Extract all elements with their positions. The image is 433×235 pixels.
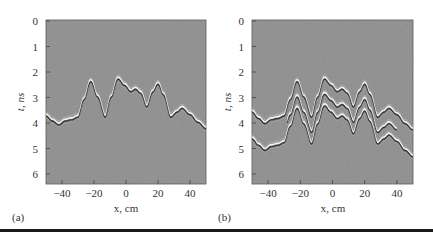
y-tick-label: 4 xyxy=(33,117,39,129)
y-tick-label: 5 xyxy=(33,143,39,155)
y-tick-label: 2 xyxy=(239,66,245,78)
panel-label-b: (b) xyxy=(218,211,231,224)
y-tick-label: 0 xyxy=(239,15,245,27)
x-tick-label: 40 xyxy=(185,187,197,199)
panel-b: 0123456 −40−2002040 t, ns x, cm (b) xyxy=(218,15,413,224)
y-tick-label: 3 xyxy=(239,92,245,104)
x-tick-label: 20 xyxy=(359,187,371,199)
x-tick-label: 0 xyxy=(330,187,336,199)
x-tick-label: 0 xyxy=(123,187,129,199)
y-tick-label: 2 xyxy=(33,66,39,78)
x-axis-title-a: x, cm xyxy=(114,202,139,214)
bottom-rule xyxy=(0,229,433,232)
figure: 0123456 −40−2002040 t, ns x, cm (a) 0123… xyxy=(0,0,433,235)
panel-a: 0123456 −40−2002040 t, ns x, cm (a) xyxy=(12,15,206,224)
x-tick-label: 20 xyxy=(153,187,165,199)
y-tick-label: 6 xyxy=(239,168,245,180)
y-tick-label: 5 xyxy=(239,143,245,155)
x-tick-label: −20 xyxy=(85,187,103,199)
y-tick-label: 3 xyxy=(33,92,39,104)
y-tick-label: 1 xyxy=(33,41,39,53)
x-tick-label: −40 xyxy=(259,187,277,199)
x-tick-label: 40 xyxy=(391,187,403,199)
y-tick-label: 1 xyxy=(239,41,245,53)
panel-label-a: (a) xyxy=(12,211,25,224)
noise-texture-a xyxy=(46,20,206,184)
x-axis-title-b: x, cm xyxy=(321,202,346,214)
y-tick-label: 4 xyxy=(239,117,245,129)
y-axis-title-a: t, ns xyxy=(14,93,26,111)
y-tick-label: 6 xyxy=(33,168,39,180)
x-tick-label: −20 xyxy=(292,187,310,199)
y-tick-label: 0 xyxy=(33,15,39,27)
y-axis-title-b: t, ns xyxy=(221,93,233,111)
x-tick-label: −40 xyxy=(53,187,71,199)
